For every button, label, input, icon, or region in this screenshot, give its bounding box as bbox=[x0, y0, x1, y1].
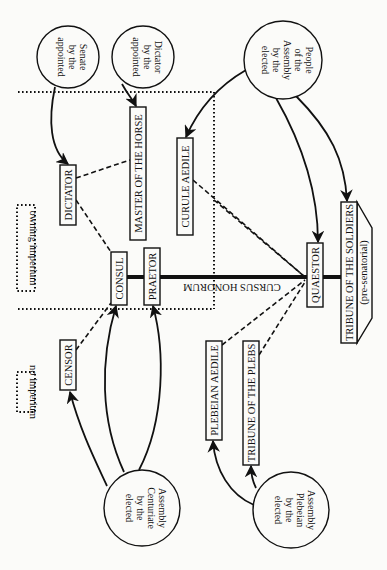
cursus-honorum-label: CURSUS HONORUM bbox=[182, 282, 280, 293]
source-plebeian-assembly: elected by the Plebeian Assembly bbox=[253, 472, 329, 548]
source-senate: appointed by the Senate bbox=[37, 26, 99, 88]
legend-no-imperium: no imperium bbox=[17, 365, 39, 419]
svg-text:Plebeian: Plebeian bbox=[295, 493, 306, 527]
svg-text:Dictator: Dictator bbox=[153, 41, 164, 74]
svg-text:by the: by the bbox=[271, 48, 282, 73]
office-censor: CENSOR bbox=[60, 340, 76, 390]
pre-senatorial-note: (pre-senatorial) bbox=[358, 240, 370, 305]
source-centuriate-assembly: elected by the Centuriate Assembly bbox=[104, 470, 180, 546]
cursus-honorum-diagram: owning imperium no imperium CURSUS HONOR… bbox=[0, 0, 387, 570]
svg-text:TRIBUNE OF THE SOLDIERS: TRIBUNE OF THE SOLDIERS bbox=[344, 204, 355, 341]
svg-text:DICTATOR: DICTATOR bbox=[63, 170, 74, 221]
svg-text:Assembly: Assembly bbox=[282, 40, 293, 80]
svg-text:Senate: Senate bbox=[78, 44, 89, 71]
legend-no-imperium-label: no imperium bbox=[28, 365, 39, 419]
svg-text:elected: elected bbox=[124, 494, 135, 522]
legend-owning-label: owning imperium bbox=[28, 211, 39, 286]
source-dictator: appointed by the Dictator bbox=[112, 26, 174, 88]
svg-text:elected: elected bbox=[273, 496, 284, 524]
legend-owning-imperium: owning imperium bbox=[17, 205, 39, 291]
svg-text:Assembly: Assembly bbox=[157, 488, 168, 528]
svg-text:by the: by the bbox=[135, 496, 146, 521]
source-assembly-people: elected by the Assembly of the People bbox=[244, 21, 322, 99]
svg-text:Assembly: Assembly bbox=[306, 490, 317, 530]
svg-text:TRIBUNE OF THE PLEBS: TRIBUNE OF THE PLEBS bbox=[246, 344, 257, 463]
office-dictator: DICTATOR bbox=[60, 165, 76, 225]
office-praetor: PRAETOR bbox=[144, 248, 160, 305]
office-master-of-horse: MASTER OF THE HORSE bbox=[130, 107, 146, 240]
svg-text:CONSUL: CONSUL bbox=[114, 257, 125, 299]
svg-text:appointed: appointed bbox=[131, 37, 142, 76]
office-plebeian-aedile: PLEBEIAN AEDILE bbox=[206, 341, 222, 440]
svg-text:Centuriate: Centuriate bbox=[146, 487, 157, 529]
svg-text:PRAETOR: PRAETOR bbox=[147, 253, 158, 301]
svg-text:appointed: appointed bbox=[56, 37, 67, 76]
svg-text:MASTER OF THE HORSE: MASTER OF THE HORSE bbox=[133, 114, 144, 233]
office-curule-aedile: CURULE AEDILE bbox=[177, 138, 193, 235]
svg-text:by the: by the bbox=[67, 45, 78, 70]
svg-text:PLEBEIAN AEDILE: PLEBEIAN AEDILE bbox=[209, 345, 220, 436]
svg-text:CENSOR: CENSOR bbox=[63, 344, 74, 385]
svg-text:CURULE AEDILE: CURULE AEDILE bbox=[180, 146, 191, 228]
svg-text:QUAESTOR: QUAESTOR bbox=[310, 247, 321, 303]
office-quaestor: QUAESTOR bbox=[307, 243, 323, 307]
svg-text:elected: elected bbox=[260, 46, 271, 74]
svg-text:by the: by the bbox=[284, 498, 295, 523]
office-tribune-plebs: TRIBUNE OF THE PLEBS bbox=[243, 341, 259, 465]
office-consul: CONSUL bbox=[111, 252, 127, 305]
svg-text:by the: by the bbox=[142, 45, 153, 70]
svg-text:People: People bbox=[304, 46, 315, 74]
office-tribune-soldiers: TRIBUNE OF THE SOLDIERS (pre-senatorial) bbox=[341, 202, 372, 343]
svg-text:of the: of the bbox=[293, 48, 304, 72]
